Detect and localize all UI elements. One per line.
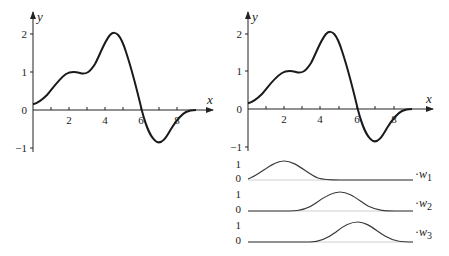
right-y-tick-0: 0 <box>237 103 243 115</box>
right-y-axis-label: y <box>250 9 258 24</box>
w1-label: ·w1 <box>415 167 432 183</box>
weight-functions: 1 0 ·w1 1 0 ·w2 1 0 ·w3 <box>236 158 433 246</box>
right-function-plot: 2 4 6 8 2 1 0 −1 x y <box>230 9 433 153</box>
weight-row-w2: 1 0 ·w2 <box>236 188 433 215</box>
left-x-axis-label: x <box>206 92 213 107</box>
left-y-tick-neg1: −1 <box>15 142 27 154</box>
right-y-tick-neg1: −1 <box>230 141 242 153</box>
right-x-tick-2: 2 <box>281 113 287 125</box>
weight-row-w3: 1 0 ·w3 <box>236 219 433 246</box>
w2-curve <box>248 192 413 211</box>
left-function-curve <box>33 33 196 143</box>
left-y-tick-0: 0 <box>22 104 28 116</box>
w1-tick-1: 1 <box>236 158 242 170</box>
weight-row-w1: 1 0 ·w1 <box>236 158 433 184</box>
right-y-tick-2: 2 <box>237 28 243 40</box>
w2-label: ·w2 <box>415 196 432 212</box>
w2-tick-1: 1 <box>236 188 242 200</box>
figure-canvas: 2 4 6 8 2 1 0 −1 x y 2 4 <box>0 0 449 256</box>
left-function-plot: 2 4 6 8 2 1 0 −1 x y <box>15 9 213 154</box>
right-x-tick-4: 4 <box>317 113 323 125</box>
right-y-tick-1: 1 <box>237 65 243 77</box>
right-x-axis-label: x <box>425 91 432 106</box>
w3-tick-0: 0 <box>236 234 242 246</box>
left-x-tick-2: 2 <box>66 114 72 126</box>
w2-tick-0: 0 <box>236 203 242 215</box>
w1-tick-0: 0 <box>236 172 242 184</box>
w3-tick-1: 1 <box>236 219 242 231</box>
left-x-tick-4: 4 <box>102 114 108 126</box>
w3-label: ·w3 <box>415 225 432 241</box>
w3-curve <box>248 222 413 242</box>
left-y-tick-2: 2 <box>22 28 28 40</box>
right-function-curve <box>248 32 412 142</box>
left-y-axis-label: y <box>35 9 43 24</box>
left-y-tick-1: 1 <box>22 66 28 78</box>
w1-curve <box>248 161 413 180</box>
